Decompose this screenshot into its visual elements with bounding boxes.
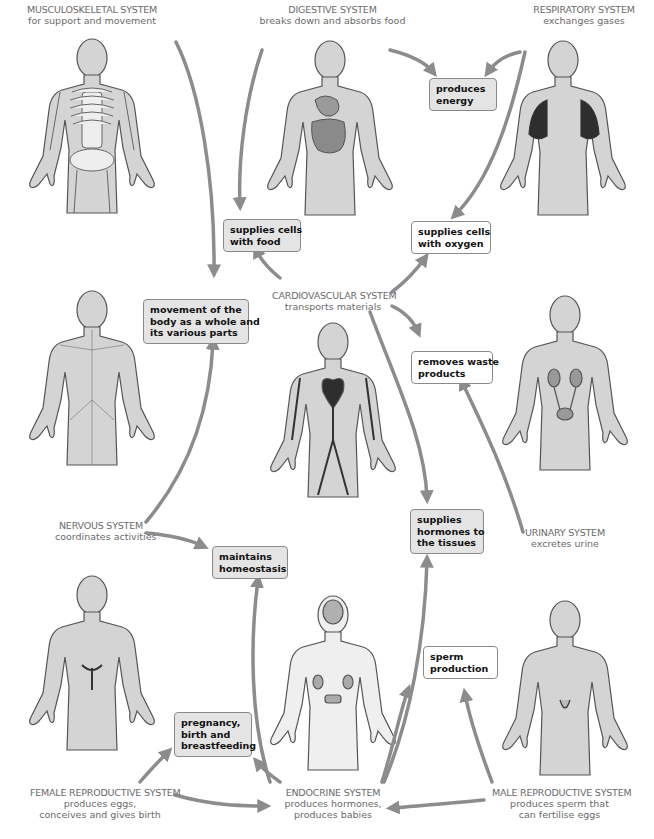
cardiovascular-label: CARDIOVASCULAR SYSTEM transports materia… — [272, 290, 394, 312]
system-title: CARDIOVASCULAR SYSTEM — [272, 290, 394, 301]
system-title: MUSCULOSKELETAL SYSTEM — [12, 4, 172, 15]
system-description: produces hormones, — [278, 798, 388, 809]
female-reproductive-label: FEMALE REPRODUCTIVE SYSTEM produces eggs… — [30, 787, 170, 820]
arrow-musculoskeletal-to-movement — [176, 42, 214, 272]
male-reproductive-label: MALE REPRODUCTIVE SYSTEM produces sperm … — [492, 787, 627, 820]
nervous-figure — [30, 291, 155, 465]
function-box-pregnancy: pregnancy, birth and breastfeeding — [174, 712, 252, 757]
system-description: produces eggs, — [30, 798, 170, 809]
system-title: URINARY SYSTEM — [520, 527, 610, 538]
nervous-label: NERVOUS SYSTEM coordinates activities — [55, 520, 147, 542]
musculoskeletal-figure — [30, 39, 155, 213]
function-box-supplies-hormones: supplies hormones to the tissues — [410, 509, 484, 554]
body-systems-diagram — [0, 0, 654, 839]
endocrine-label: ENDOCRINE SYSTEM produces hormones, prod… — [278, 787, 388, 820]
system-description: coordinates activities — [55, 531, 147, 542]
system-description: produces sperm that — [492, 798, 627, 809]
endocrine-figure — [271, 596, 396, 770]
respiratory-figure — [501, 41, 626, 215]
digestive-label: DIGESTIVE SYSTEM breaks down and absorbs… — [250, 4, 415, 26]
system-description: breaks down and absorbs food — [250, 15, 415, 26]
function-box-supplies-cells-food: supplies cells with food — [223, 219, 301, 252]
system-title: ENDOCRINE SYSTEM — [278, 787, 388, 798]
arrow-cardio-to-waste — [392, 306, 418, 332]
function-box-maintains-homeostasis: maintains homeostasis — [212, 546, 288, 579]
function-box-sperm-production: sperm production — [423, 646, 498, 679]
system-description: can fertilise eggs — [492, 809, 627, 820]
arrow-cardio-to-food — [256, 250, 280, 278]
digestive-figure — [268, 41, 393, 215]
function-box-produces-energy: produces energy — [429, 78, 497, 111]
system-title: NERVOUS SYSTEM — [55, 520, 147, 531]
function-box-movement: movement of the body as a whole and its … — [143, 299, 249, 344]
system-description: conceives and gives birth — [30, 809, 170, 820]
system-title: DIGESTIVE SYSTEM — [250, 4, 415, 15]
cardiovascular-figure — [271, 323, 396, 497]
arrow-male-to-sperm — [465, 694, 492, 782]
male-reproductive-figure — [503, 601, 628, 775]
arrow-digestive-to-food — [240, 50, 262, 205]
system-description: exchanges gases — [515, 15, 653, 26]
urinary-label: URINARY SYSTEM excretes urine — [520, 527, 610, 549]
arrow-respiratory-to-oxygen — [455, 52, 525, 215]
system-title: FEMALE REPRODUCTIVE SYSTEM — [30, 787, 170, 798]
arrow-endocrine-to-homeostasis — [253, 580, 270, 782]
arrow-cardio-to-hormones — [370, 312, 427, 498]
urinary-figure — [503, 296, 628, 470]
system-description: excretes urine — [520, 538, 610, 549]
arrow-female-to-endocrine — [175, 795, 265, 806]
system-description: for support and movement — [12, 15, 172, 26]
arrow-digestive-to-energy — [390, 50, 433, 72]
function-box-removes-waste: removes waste products — [411, 351, 493, 384]
respiratory-label: RESPIRATORY SYSTEM exchanges gases — [515, 4, 653, 26]
arrow-cardio-to-oxygen — [392, 258, 425, 292]
arrow-nervous-to-movement — [146, 342, 213, 522]
musculoskeletal-label: MUSCULOSKELETAL SYSTEM for support and m… — [12, 4, 172, 26]
arrow-male-to-endocrine — [392, 800, 484, 808]
system-title: RESPIRATORY SYSTEM — [515, 4, 653, 15]
system-description: produces babies — [278, 809, 388, 820]
system-title: MALE REPRODUCTIVE SYSTEM — [492, 787, 627, 798]
female-reproductive-figure — [30, 576, 155, 750]
arrow-female-to-pregnancy — [140, 752, 168, 782]
function-box-supplies-cells-oxygen: supplies cells with oxygen — [411, 221, 491, 254]
arrow-respiratory-to-energy — [488, 52, 520, 72]
system-description: transports materials — [272, 301, 394, 312]
